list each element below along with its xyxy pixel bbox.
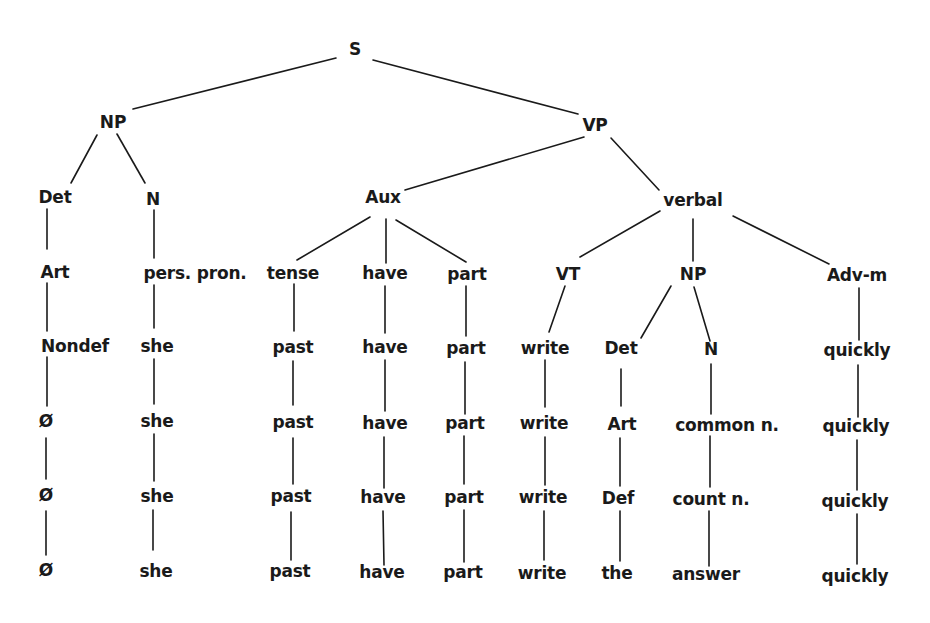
tree-node-null3: Ø [39, 562, 53, 579]
syntax-tree-diagram: SNPVPDetNAuxverbalArtpers. pron.tensehav… [0, 0, 930, 623]
tree-node-n2: N [704, 341, 718, 358]
tree-node-aux: Aux [365, 189, 401, 206]
tree-branch [373, 60, 578, 114]
tree-node-part1: part [447, 266, 486, 283]
tree-node-past2: past [272, 414, 313, 431]
tree-node-have1: have [362, 265, 407, 282]
tree-branch [611, 138, 659, 190]
tree-node-past3: past [270, 488, 311, 505]
tree-branch [383, 511, 384, 565]
tree-node-part4: part [444, 489, 483, 506]
tree-node-np2: NP [680, 266, 706, 283]
tree-node-null1: Ø [39, 413, 53, 430]
tree-node-quickly3: quickly [822, 493, 889, 510]
tree-node-quickly1: quickly [824, 342, 891, 359]
tree-node-she2: she [140, 413, 173, 430]
tree-node-def: Def [602, 490, 634, 507]
tree-node-verbal: verbal [663, 192, 722, 209]
tree-node-have3: have [362, 415, 407, 432]
tree-node-answer: answer [672, 566, 740, 583]
tree-branch [694, 287, 710, 341]
tree-node-have2: have [362, 339, 407, 356]
tree-branch [71, 135, 97, 183]
tree-node-quickly2: quickly [823, 418, 890, 435]
tree-node-past1: past [272, 339, 313, 356]
tree-node-she4: she [139, 563, 172, 580]
tree-branch [733, 216, 829, 264]
tree-node-null2: Ø [39, 487, 53, 504]
tree-node-have4: have [360, 489, 405, 506]
tree-node-countn: count n. [673, 491, 750, 508]
tree-node-part2: part [446, 340, 485, 357]
tree-branch [549, 286, 565, 332]
tree-node-np1: NP [100, 114, 126, 131]
tree-node-quickly4: quickly [822, 568, 889, 585]
tree-node-det1: Det [38, 189, 71, 206]
tree-branch [405, 137, 584, 190]
tree-node-the: the [601, 565, 632, 582]
tree-edges [0, 0, 930, 623]
tree-node-commonn: common n. [675, 417, 779, 434]
tree-branch [396, 220, 466, 262]
tree-node-part5: part [443, 564, 482, 581]
tree-node-past4: past [269, 563, 310, 580]
tree-node-advm: Adv-m [827, 267, 887, 284]
tree-branch [117, 134, 145, 183]
tree-node-write3: write [519, 489, 568, 506]
tree-node-write2: write [520, 415, 569, 432]
tree-node-vp: VP [582, 117, 607, 134]
tree-node-vt: VT [556, 266, 580, 283]
tree-branch [641, 286, 671, 338]
tree-node-tense: tense [267, 265, 319, 282]
tree-node-part3: part [445, 415, 484, 432]
tree-node-write4: write [518, 565, 567, 582]
tree-node-she1: she [140, 338, 173, 355]
tree-node-art1: Art [40, 264, 69, 281]
tree-node-perspron: pers. pron. [143, 265, 246, 282]
tree-node-art2: Art [607, 416, 636, 433]
tree-node-det2: Det [604, 340, 637, 357]
tree-node-nondef: Nondef [41, 338, 109, 355]
tree-node-write1: write [521, 340, 570, 357]
tree-node-she3: she [140, 488, 173, 505]
tree-branch [580, 211, 660, 257]
tree-branch [133, 58, 336, 109]
tree-node-n1: N [146, 191, 160, 208]
tree-node-have5: have [359, 564, 404, 581]
tree-branch [297, 217, 370, 260]
tree-node-s: S [349, 41, 361, 58]
